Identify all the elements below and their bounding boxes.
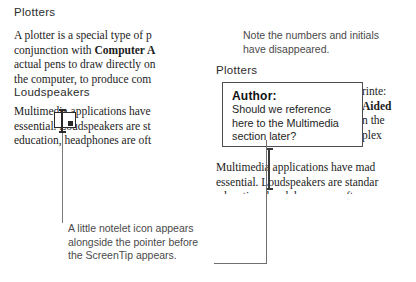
right-paragraph-line: Multimedia applications have mad [216,160,378,175]
right-paragraph-line: Aided [362,99,391,114]
right-paragraph-line: plex [362,128,391,143]
left-paragraph-line: A plotter is a special type of p [14,28,155,43]
screenshot-canvas: Plotters A plotter is a special type of … [0,0,416,282]
right-heading-plotters: Plotters [216,64,257,76]
left-paragraph-line: the computer, to produce com [14,72,155,87]
screentip-author-label: Author: [232,89,354,103]
notelet-icon[interactable] [54,112,76,128]
screentip-body-line: section later? [232,130,354,144]
left-annotation-caption: A little notelet icon appears alongside … [68,222,206,263]
left-callout-leader-line [62,133,63,223]
left-paragraph-line: Multimedia applications have [14,104,151,119]
screentip-comment-balloon: Author: Should we reference here to the … [222,82,363,147]
screentip-body-line: Should we reference [232,103,354,117]
left-paragraph-line: conjunction with Computer A [14,43,155,58]
right-paragraph-line: education, headphones are often m [216,189,378,194]
screentip-body-line: here to the Multimedia [232,117,354,131]
right-annotation-caption: Note the numbers and initials have disap… [243,29,403,56]
left-paragraph-loudspeakers: Multimedia applications have essential. … [14,104,151,148]
right-paragraph-line: rinte: [362,84,391,99]
right-callout-leader-line-horizontal [214,263,267,264]
right-callout-leader-line-vertical [266,140,267,264]
left-paragraph-plotters: A plotter is a special type of p conjunc… [14,28,155,86]
left-paragraph-line: actual pens to draw directly on [14,57,155,72]
left-heading-plotters: Plotters [14,6,55,18]
i-beam-pointer-icon [61,109,63,133]
right-paragraph-loudspeakers: Multimedia applications have mad essenti… [216,160,378,194]
left-paragraph-line: education, headphones are oft [14,133,151,148]
right-paragraph-line: n the [362,113,391,128]
right-paragraph-line: essential. Loudspeakers are standar [216,175,378,190]
right-i-beam-pointer-icon [268,148,270,190]
left-document-panel: Plotters A plotter is a special type of … [0,0,210,160]
left-heading-loudspeakers: Loudspeakers [14,86,90,98]
left-paragraph-line: essential. Loudspeakers are st [14,119,151,134]
